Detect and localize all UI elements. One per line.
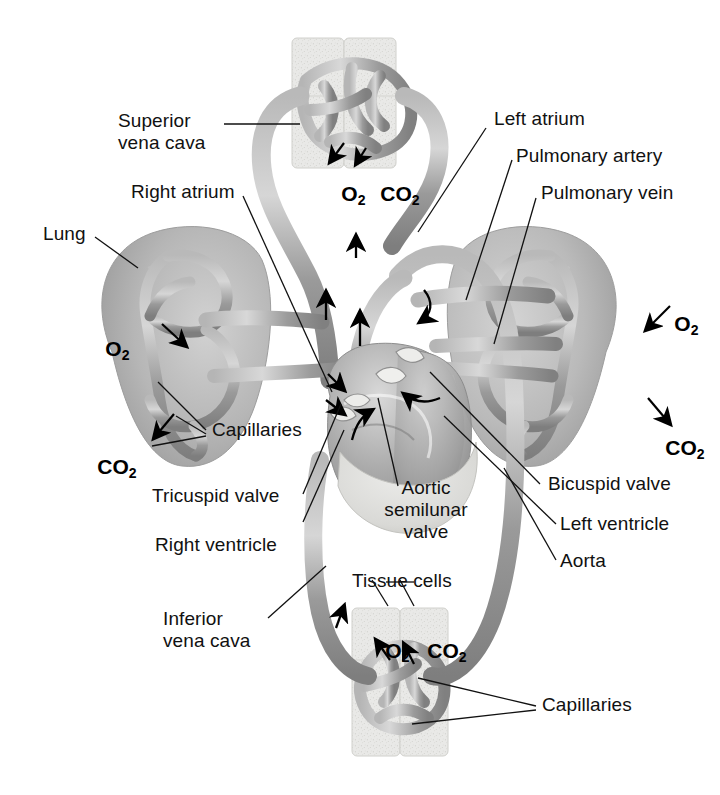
gas-text: O xyxy=(385,639,401,662)
label-inferior-vena-cava: Inferior vena cava xyxy=(163,608,251,652)
label-left-ventricle: Left ventricle xyxy=(560,513,669,535)
label-lung-left: Lung xyxy=(43,223,86,245)
gas-text: CO xyxy=(97,455,129,478)
label-tissue-cells: Tissue cells xyxy=(352,570,452,592)
gas-text: O xyxy=(341,182,357,205)
label-superior-vena-cava: Superior vena cava xyxy=(118,110,206,154)
label-pulmonary-artery: Pulmonary artery xyxy=(516,145,662,167)
diagram-canvas: Superior vena cava Right atrium Lung Lef… xyxy=(0,0,720,795)
gas-label-left-lung-o2: O2 xyxy=(82,313,129,385)
gas-sub: 2 xyxy=(459,649,467,665)
vessel-pulmonary-artery-right xyxy=(418,293,548,300)
label-capillaries-tissue: Capillaries xyxy=(542,694,632,716)
gas-sub: 2 xyxy=(122,347,130,363)
label-capillaries-lung: Capillaries xyxy=(212,419,302,441)
label-aorta: Aorta xyxy=(560,550,606,572)
vessel-pulmonary-vein-right xyxy=(436,343,556,346)
gas-text: O xyxy=(105,337,121,360)
gas-label-right-lung-o2: O2 xyxy=(651,288,698,360)
gas-label-top-co2: CO2 xyxy=(357,158,420,230)
gas-label-bottom-o2: O2 xyxy=(362,615,409,687)
label-tricuspid-valve: Tricuspid valve xyxy=(152,485,280,507)
gas-text: O xyxy=(674,312,690,335)
gas-sub: 2 xyxy=(412,192,420,208)
gas-sub: 2 xyxy=(697,446,705,462)
label-left-atrium: Left atrium xyxy=(494,108,585,130)
gas-sub: 2 xyxy=(129,465,137,481)
label-right-ventricle: Right ventricle xyxy=(155,534,277,556)
gas-label-bottom-co2: CO2 xyxy=(404,615,467,687)
gas-text: CO xyxy=(380,182,412,205)
vessel-pulmonary-artery-left xyxy=(206,318,322,322)
gas-label-right-lung-co2: CO2 xyxy=(642,412,705,484)
circulation-illustration xyxy=(0,0,720,795)
gas-text: CO xyxy=(665,436,697,459)
gas-label-left-lung-co2: CO2 xyxy=(74,431,137,503)
gas-sub: 2 xyxy=(691,322,699,338)
label-right-atrium: Right atrium xyxy=(131,181,235,203)
gas-text: CO xyxy=(427,639,459,662)
label-aortic-semilunar-valve: Aortic semilunar valve xyxy=(370,477,482,543)
label-pulmonary-vein: Pulmonary vein xyxy=(541,182,673,204)
